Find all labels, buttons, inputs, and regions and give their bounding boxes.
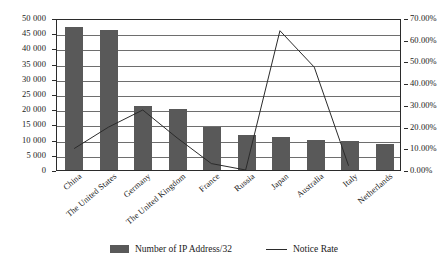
legend-line-swatch-icon [266,249,287,250]
y-left-tick-label: 30 000 [22,75,46,84]
x-axis-tick-label-text: Australia [294,171,325,199]
y-right-tick-mark [404,84,408,85]
y-left-tick-label: 50 000 [22,14,46,23]
x-axis-tick-label-text: Japan [269,171,291,191]
y-right-tick-mark [404,106,408,107]
y-right-tick-mark [404,128,408,129]
x-axis-tick-label-text: Germany [122,171,153,199]
x-axis-tick-label-text: The United Kingdom [124,171,188,227]
y-right-tick-label: 70.00% [410,14,437,23]
y-right-tick-label: 60.00% [410,36,437,45]
y-right-tick-label: 20.00% [410,123,437,132]
y-right-tick-label: 40.00% [410,79,437,88]
legend-bar-swatch-icon [110,245,129,253]
y-left-tick-label: 10 000 [22,136,46,145]
y-left-tick-label: 35 000 [22,60,46,69]
x-axis-tick-label-text: Italy [341,171,360,189]
y-right-tick-mark [404,62,408,63]
y-right-tick-label: 50.00% [410,57,437,66]
y-left-tick-label: 15 000 [22,120,46,129]
y-axis-right: 0.00%10.00%20.00%30.00%40.00%50.00%60.00… [404,19,448,171]
legend-item-line: Notice Rate [266,244,338,254]
line-series-notice-rate [57,20,400,170]
chart-legend: Number of IP Address/32 Notice Rate [0,239,448,259]
x-axis-tick-label-text: China [61,171,83,192]
y-left-tick-label: 45 000 [22,29,46,38]
x-axis-tick-label-text: France [197,171,222,194]
y-left-tick-label: 25 000 [22,90,46,99]
y-left-tick-label: 5 000 [26,151,46,160]
y-axis-left: 05 00010 00015 00020 00025 00030 00035 0… [0,19,52,171]
legend-item-bar: Number of IP Address/32 [110,244,232,254]
legend-bar-label: Number of IP Address/32 [135,244,232,254]
y-right-tick-label: 30.00% [410,101,437,110]
y-left-tick-label: 20 000 [22,105,46,114]
y-right-tick-mark [404,41,408,42]
chart-container: 05 00010 00015 00020 00025 00030 00035 0… [0,0,448,265]
legend-line-label: Notice Rate [293,244,338,254]
plot-area [56,19,401,171]
y-left-tick-label: 0 [42,166,46,175]
y-right-tick-label: 0.00% [410,166,432,175]
y-right-tick-mark [404,19,408,20]
y-right-tick-mark [404,149,408,150]
x-axis-categories: ChinaThe United StatesGermanyThe United … [56,171,401,237]
x-axis-tick-label-text: Russia [232,171,256,194]
y-left-tick-label: 40 000 [22,44,46,53]
y-right-tick-mark [404,171,408,172]
